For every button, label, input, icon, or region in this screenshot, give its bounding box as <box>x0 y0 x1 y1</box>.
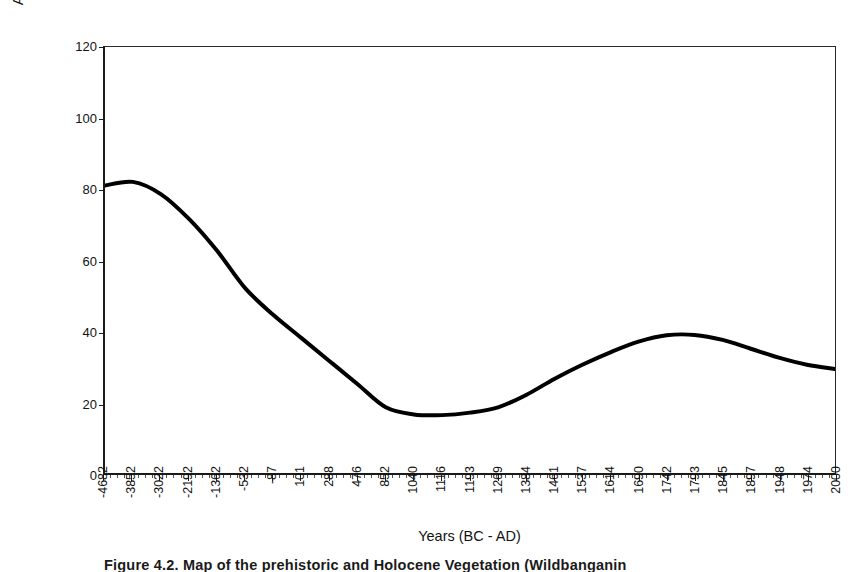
y-axis-tick-label: 100 <box>57 110 97 125</box>
x-axis-tick-label: 1614 <box>603 465 617 511</box>
x-axis-tick-label: 476 <box>350 465 364 511</box>
x-axis-tick-label: 101 <box>293 465 307 511</box>
y-axis-tick-mark <box>99 190 105 191</box>
x-axis-tick-label: 1040 <box>406 465 420 511</box>
x-axis-tick-label: -1362 <box>209 465 223 511</box>
x-axis-tick-label: 1793 <box>688 465 702 511</box>
series-line-chart <box>105 47 835 473</box>
plot-area <box>103 46 836 475</box>
x-axis-title: Years (BC - AD) <box>103 528 836 544</box>
x-axis-tick-label: 1897 <box>744 465 758 511</box>
x-axis-tick-label: 852 <box>378 465 392 511</box>
x-axis-tick-label: 2000 <box>829 465 843 511</box>
x-axis-tick-label: 1116 <box>434 465 448 511</box>
y-axis-tick-mark <box>99 47 105 48</box>
x-axis-tick-label: 1974 <box>801 465 815 511</box>
x-axis-tick-label: 288 <box>322 465 336 511</box>
pollen-series-line <box>105 182 835 416</box>
y-axis-tick-label: 40 <box>57 325 97 340</box>
y-axis-tick-mark <box>99 405 105 406</box>
x-axis-tick-label: -4682 <box>96 465 110 511</box>
x-axis-tick-label: 1384 <box>519 465 533 511</box>
y-axis-tick-label: 120 <box>57 39 97 54</box>
figure-root: Arboreal/NonArboreal Pollen % 0204060801… <box>0 0 864 572</box>
y-axis-tick-labels: 020406080100120 <box>55 0 97 572</box>
x-axis-tick-label: 1742 <box>660 465 674 511</box>
y-axis-tick-mark <box>99 119 105 120</box>
x-axis-tick-label: 1845 <box>716 465 730 511</box>
figure-caption: Figure 4.2. Map of the prehistoric and H… <box>104 557 804 572</box>
x-axis-tick-label: -532 <box>237 465 251 511</box>
x-axis-tick-label: 1690 <box>632 465 646 511</box>
x-axis-tick-label: 1461 <box>547 465 561 511</box>
x-axis-tick-label: -3022 <box>152 465 166 511</box>
y-axis-tick-label: 80 <box>57 182 97 197</box>
x-axis-tick-label: 1948 <box>773 465 787 511</box>
y-axis-tick-label: 0 <box>57 468 97 483</box>
x-axis-tick-label: 1269 <box>491 465 505 511</box>
x-axis-tick-label: 1193 <box>463 465 477 511</box>
x-axis-tick-label: -3852 <box>124 465 138 511</box>
y-axis-tick-mark <box>99 262 105 263</box>
x-axis-tick-labels: -4682-3852-3022-2192-1362-532-8710128847… <box>103 475 836 525</box>
x-axis-tick-label: -2192 <box>181 465 195 511</box>
y-axis-tick-label: 60 <box>57 253 97 268</box>
x-axis-tick-label: 1537 <box>575 465 589 511</box>
x-axis-tick-label: -87 <box>265 465 279 511</box>
y-axis-tick-mark <box>99 333 105 334</box>
y-axis-title: Arboreal/NonArboreal Pollen % <box>0 0 36 118</box>
y-axis-tick-label: 20 <box>57 396 97 411</box>
